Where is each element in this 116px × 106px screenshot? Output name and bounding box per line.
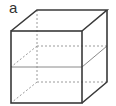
hidden-section-left [11,46,37,67]
section-lines [11,46,107,67]
section-right [82,46,107,67]
hidden-edges [11,10,107,103]
visible-edges [11,10,107,103]
hidden-edge-bottom-left-depth [11,82,37,103]
top-face-edges [11,10,107,31]
cube-diagram [0,0,116,106]
